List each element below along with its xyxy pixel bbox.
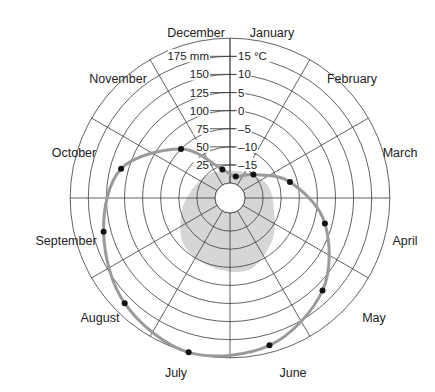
- temperature-point: [118, 166, 124, 172]
- month-label-july: July: [165, 366, 188, 380]
- grid-spoke: [150, 60, 222, 185]
- precip-scale-label: 175 mm: [167, 50, 209, 62]
- temp-scale-label: –15: [238, 159, 257, 171]
- center-hole: [215, 183, 245, 213]
- radial-scale-labels: 25–1550–1075–51000125515010175 mm15 °C: [167, 38, 270, 183]
- month-label-august: August: [81, 311, 120, 325]
- temp-scale-label: 5: [238, 87, 244, 99]
- center-circle: [215, 183, 245, 213]
- temperature-point: [101, 229, 107, 235]
- month-label-april: April: [392, 234, 417, 248]
- temp-scale-label: –5: [238, 123, 251, 135]
- month-label-september: September: [35, 234, 96, 248]
- precip-scale-label: 50: [196, 141, 209, 153]
- temperature-point: [250, 172, 256, 178]
- month-label-march: March: [383, 146, 418, 160]
- month-label-june: June: [279, 366, 306, 380]
- temperature-point: [322, 220, 328, 226]
- month-label-may: May: [362, 311, 386, 325]
- temp-scale-label: –10: [238, 141, 257, 153]
- temperature-point: [287, 179, 293, 185]
- temperature-point: [122, 300, 128, 306]
- temperature-point: [186, 349, 192, 355]
- precip-scale-label: 75: [196, 123, 209, 135]
- temp-scale-label: 15 °C: [238, 50, 267, 62]
- month-label-january: January: [250, 26, 295, 40]
- precip-scale-label: 100: [190, 105, 209, 117]
- temperature-point: [233, 174, 239, 180]
- temp-scale-label: 10: [238, 68, 251, 80]
- month-label-october: October: [52, 146, 96, 160]
- polar-climate-chart: 25–1550–1075–51000125515010175 mm15 °C J…: [0, 0, 435, 392]
- precip-scale-label: 150: [190, 68, 209, 80]
- temperature-point: [320, 288, 326, 294]
- temperature-point: [219, 167, 225, 173]
- temperature-point: [266, 342, 272, 348]
- precip-scale-label: 125: [190, 87, 209, 99]
- temp-scale-label: 0: [238, 105, 244, 117]
- grid-spoke: [243, 118, 368, 190]
- month-label-november: November: [89, 72, 147, 86]
- temperature-point: [178, 146, 184, 152]
- month-label-december: December: [167, 26, 225, 40]
- month-label-february: February: [327, 72, 378, 86]
